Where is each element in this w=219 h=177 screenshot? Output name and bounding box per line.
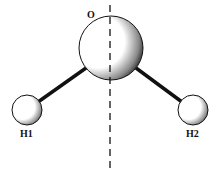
oxygen-atom	[79, 16, 143, 80]
label-h2: H2	[186, 128, 199, 139]
hydrogen-atom-h2	[178, 95, 208, 125]
bond-o-h2	[136, 68, 182, 102]
water-molecule-diagram: O H1 H2	[0, 0, 219, 177]
label-o: O	[87, 9, 95, 20]
hydrogen-atom-h1	[12, 95, 42, 125]
bond-o-h1	[38, 68, 86, 102]
label-h1: H1	[20, 128, 33, 139]
